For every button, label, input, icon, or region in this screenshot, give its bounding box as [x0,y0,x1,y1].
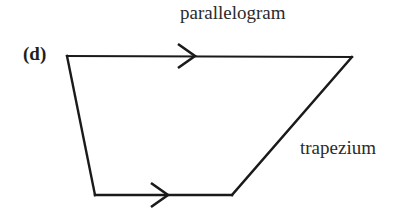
top-edge-line [67,56,352,57]
trapezium-label: trapezium [300,138,376,157]
right-edge-line [232,57,352,195]
quadrilateral-drawing [0,0,401,209]
part-label: (d) [23,44,46,63]
parallelogram-label: parallelogram [180,3,286,22]
left-edge-line [67,56,95,195]
geometry-figure: (d) parallelogram trapezium [0,0,401,209]
